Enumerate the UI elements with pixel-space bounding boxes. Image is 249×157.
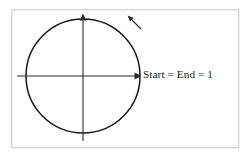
direction-arrow-shaft [131, 19, 141, 29]
figure-container: Start = End = 1 [0, 0, 249, 157]
start-end-label: Start = End = 1 [143, 68, 213, 81]
vertical-axis-arrowhead [80, 14, 87, 21]
